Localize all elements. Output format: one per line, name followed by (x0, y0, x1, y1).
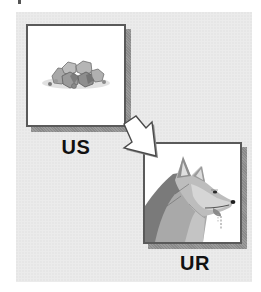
arrow-us-to-ur-icon (100, 110, 170, 170)
us-label: US (46, 136, 106, 159)
page-fragment-mark (18, 0, 21, 4)
ur-label: UR (165, 252, 225, 275)
